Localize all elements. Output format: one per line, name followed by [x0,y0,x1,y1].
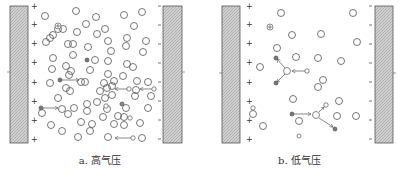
caption-high-pressure: a. 高气压 [0,152,200,167]
svg-text:+: + [246,78,253,87]
panel-high-pressure: ++++ ++++ [0,0,200,173]
svg-text:+: + [31,78,38,87]
svg-text:+: + [246,58,253,67]
svg-text:+: + [31,2,38,11]
anode-charge-signs: ++++ ++++ [31,2,38,144]
svg-text:+: + [31,97,38,106]
svg-text:+: + [31,20,38,29]
caption-low-pressure: b. 低气压 [200,152,399,167]
anode-electrode [222,6,240,143]
cathode-electrode [163,6,182,143]
charged-particles [251,24,337,138]
cathode-charge-signs [369,6,372,139]
anode-charge-signs: ++++ ++++ [246,2,253,144]
high-pressure-diagram: ++++ ++++ [0,0,200,150]
svg-text:+: + [246,97,253,106]
charged-particles [39,23,156,140]
svg-text:+: + [31,58,38,67]
cathode-charge-signs [158,6,161,139]
cathode-electrode [375,6,393,143]
svg-text:+: + [246,135,253,144]
svg-text:+: + [246,39,253,48]
svg-text:+: + [246,20,253,29]
svg-text:+: + [31,135,38,144]
svg-text:+: + [31,116,38,125]
low-pressure-diagram: ++++ ++++ [200,0,399,150]
anode-electrode [10,6,28,143]
svg-text:+: + [31,39,38,48]
svg-text:+: + [246,2,253,11]
panel-low-pressure: ++++ ++++ [200,0,399,173]
